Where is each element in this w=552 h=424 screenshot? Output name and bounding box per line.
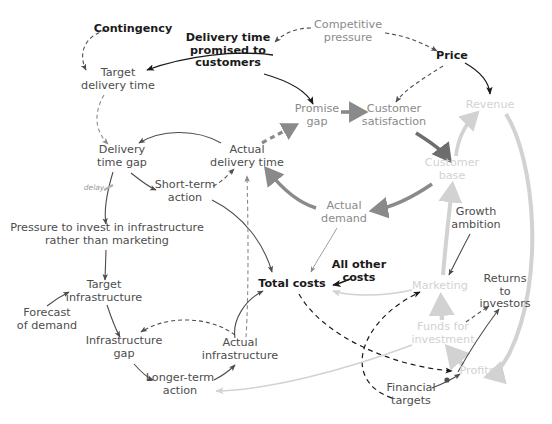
link-actual-infra-to-infra-gap — [141, 320, 235, 335]
node-infrastructure-gap[interactable]: Infrastructure gap — [86, 335, 163, 360]
link-contingency-to-target-delivery — [83, 30, 106, 70]
node-delivery-time-gap[interactable]: Delivery time gap — [97, 144, 147, 169]
node-actual-demand[interactable]: Actual demand — [321, 200, 367, 225]
node-contingency[interactable]: Contingency — [94, 23, 173, 36]
node-pressure-to-invest-in-infrastructure[interactable]: Pressure to invest in infrastructure rat… — [10, 222, 204, 247]
node-longer-term-action[interactable]: Longer-term action — [146, 372, 214, 397]
node-competitive-pressure[interactable]: Competitive pressure — [314, 19, 382, 44]
link-satisfaction-to-customer-base — [416, 133, 448, 158]
link-customer-base-to-actual-demand — [375, 184, 432, 210]
node-customer-satisfaction[interactable]: Customer satisfaction — [362, 103, 426, 128]
link-promised-to-promise-gap — [264, 74, 313, 104]
node-profits[interactable]: Profits — [459, 365, 494, 378]
node-actual-infrastructure[interactable]: Actual infrastructure — [202, 337, 278, 362]
node-revenue[interactable]: Revenue — [466, 99, 515, 112]
link-customer-base-to-revenue — [456, 115, 475, 156]
link-actual-demand-to-actual-delivery — [268, 171, 316, 208]
link-junction-dot — [444, 377, 449, 382]
node-forecast-of-demand[interactable]: Forecast of demand — [17, 307, 77, 332]
link-target-delivery-to-gap — [97, 95, 108, 144]
node-all-other-costs[interactable]: All other costs — [332, 259, 386, 284]
node-marketing[interactable]: Marketing — [412, 280, 468, 293]
link-financial-targets-to-profits — [432, 374, 460, 388]
link-delivery-gap-to-pressure — [105, 172, 113, 224]
node-target-infrastructure[interactable]: Target infrastructure — [66, 279, 142, 304]
link-actual-infra-to-total-costs — [235, 291, 263, 338]
label-delay: delay — [84, 184, 105, 192]
link-longer-term-to-actual-infra — [214, 365, 235, 380]
link-target-infra-to-infra-gap — [107, 305, 120, 337]
link-actual-delivery-to-gap — [139, 132, 221, 143]
node-delivery-time-promised-to-customers[interactable]: Delivery time promised to customers — [186, 32, 271, 70]
link-actual-delivery-to-promise-gap — [262, 126, 294, 143]
link-short-term-to-total-costs — [212, 200, 272, 272]
link-price-to-revenue — [465, 63, 490, 94]
link-short-term-to-actual-delivery — [213, 169, 234, 186]
link-delivery-gap-to-short-term — [131, 173, 156, 190]
node-funds-for-investment[interactable]: Funds for investment — [411, 321, 474, 346]
link-pressure-to-target-infra — [105, 250, 106, 280]
node-financial-targets[interactable]: Financial targets — [387, 382, 436, 407]
node-growth-ambition[interactable]: Growth ambition — [451, 206, 500, 231]
node-price[interactable]: Price — [436, 50, 468, 63]
link-competitive-to-promised — [275, 28, 311, 42]
causal-loop-diagram: Contingency Delivery time promised to cu… — [0, 0, 552, 424]
node-total-costs[interactable]: Total costs — [258, 278, 325, 291]
link-funds-to-marketing — [441, 300, 442, 320]
node-short-term-action[interactable]: Short-term action — [155, 179, 216, 204]
link-marketing-to-total-costs — [333, 290, 412, 295]
node-customer-base[interactable]: Customer base — [425, 157, 479, 182]
link-price-to-satisfaction — [396, 66, 443, 102]
link-growth-ambition-to-marketing — [449, 234, 470, 275]
node-target-delivery-time[interactable]: Target delivery time — [81, 67, 155, 92]
node-returns-to-investors[interactable]: Returns to investors — [479, 273, 530, 311]
node-actual-delivery-time[interactable]: Actual delivery time — [210, 144, 284, 169]
link-revenue-to-profits — [490, 114, 532, 376]
link-competitive-to-price — [385, 33, 437, 51]
node-promise-gap[interactable]: Promise gap — [295, 103, 339, 128]
delay-marker — [104, 185, 113, 190]
link-actual-infra-to-actual-delivery — [246, 176, 248, 337]
